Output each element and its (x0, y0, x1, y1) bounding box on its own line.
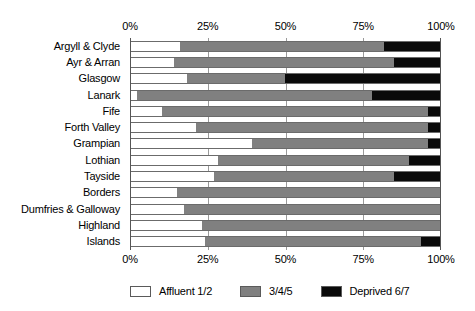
bar-segment (174, 58, 393, 67)
category-label: Lanark (0, 90, 125, 101)
bar-segment (137, 91, 372, 100)
bar-segment (131, 205, 184, 214)
x-tick-label-100pct: 100% (427, 20, 454, 33)
bar-segment (184, 205, 440, 214)
bar-segment (214, 172, 393, 181)
category-label: Lothian (0, 155, 125, 166)
bar-row (131, 106, 440, 117)
x-axis-bottom: 0%25%50%75%100% (130, 253, 441, 267)
bar-row (131, 155, 440, 166)
bar-segment (372, 91, 440, 100)
bar-rows (131, 38, 440, 250)
bar-row (131, 41, 440, 52)
legend-swatch-icon (321, 286, 342, 297)
bar-segment (131, 139, 252, 148)
bar-segment (131, 58, 174, 67)
bar-segment (187, 74, 286, 83)
bar-row (131, 122, 440, 133)
bar-segment (394, 58, 440, 67)
bar-segment (177, 188, 440, 197)
bar-segment (131, 107, 162, 116)
x-tick-label-0pct: 0% (122, 253, 138, 266)
x-axis-top: 0%25%50%75%100% (130, 20, 441, 34)
bar-row (131, 187, 440, 198)
bar-segment (421, 237, 440, 246)
bar-row (131, 236, 440, 247)
category-label: Grampian (0, 138, 125, 149)
legend-swatch-icon (130, 286, 151, 297)
bar-segment (409, 156, 440, 165)
x-tick-label-100pct: 100% (427, 253, 454, 266)
bar-segment (218, 156, 410, 165)
category-label: Glasgow (0, 73, 125, 84)
x-tick-label-25pct: 25% (197, 20, 218, 33)
bar-segment (131, 123, 196, 132)
bar-row (131, 90, 440, 101)
category-label: Ayr & Arran (0, 57, 125, 68)
bar-segment (384, 42, 440, 51)
legend-item: 3/4/5 (240, 285, 292, 297)
bar-row (131, 204, 440, 215)
legend-item: Deprived 6/7 (321, 285, 410, 297)
x-tick-label-50pct: 50% (275, 20, 296, 33)
bar-row (131, 171, 440, 182)
bar-segment (131, 237, 205, 246)
bar-segment (180, 42, 384, 51)
bar-segment (428, 123, 440, 132)
bar-segment (428, 107, 440, 116)
legend-label: Affluent 1/2 (159, 285, 212, 297)
bar-segment (196, 123, 428, 132)
bar-segment (131, 74, 187, 83)
category-label: Dumfries & Galloway (0, 204, 125, 215)
x-tick-label-75pct: 75% (353, 253, 374, 266)
bar-segment (252, 139, 428, 148)
x-tick-label-25pct: 25% (197, 253, 218, 266)
bar-segment (131, 221, 202, 230)
category-label: Fife (0, 106, 125, 117)
category-label: Argyll & Clyde (0, 41, 125, 52)
legend-swatch-icon (240, 286, 261, 297)
bar-row (131, 138, 440, 149)
bar-segment (162, 107, 428, 116)
bar-segment (202, 221, 440, 230)
bar-segment (131, 156, 218, 165)
bar-segment (428, 139, 440, 148)
bar-segment (205, 237, 421, 246)
plot-area (130, 38, 441, 250)
category-label: Islands (0, 236, 125, 247)
stacked-bar-chart: 0%25%50%75%100% Argyll & ClydeAyr & Arra… (0, 0, 475, 311)
x-tick-label-0pct: 0% (122, 20, 138, 33)
bar-row (131, 57, 440, 68)
category-label: Forth Valley (0, 122, 125, 133)
bar-segment (285, 74, 440, 83)
chart-legend: Affluent 1/23/4/5Deprived 6/7 (130, 281, 460, 301)
bar-row (131, 220, 440, 231)
bar-segment (131, 172, 214, 181)
category-label: Highland (0, 220, 125, 231)
category-label: Borders (0, 187, 125, 198)
legend-item: Affluent 1/2 (130, 285, 212, 297)
x-tick-label-50pct: 50% (275, 253, 296, 266)
x-tick-label-75pct: 75% (353, 20, 374, 33)
bar-segment (394, 172, 440, 181)
bar-row (131, 73, 440, 84)
bar-segment (131, 188, 177, 197)
legend-label: Deprived 6/7 (350, 285, 410, 297)
legend-label: 3/4/5 (269, 285, 292, 297)
bar-segment (131, 42, 180, 51)
category-label: Tayside (0, 171, 125, 182)
y-axis-category-labels: Argyll & ClydeAyr & ArranGlasgowLanarkFi… (0, 38, 125, 250)
